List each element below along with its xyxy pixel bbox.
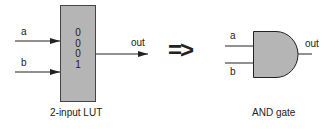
gate-output-label: out	[305, 39, 319, 49]
implies-arrow: =>	[168, 38, 192, 62]
lut-input-a-label: a	[21, 27, 27, 37]
lut-input-b-label: b	[21, 58, 27, 68]
lut-caption: 2-input LUT	[50, 108, 102, 118]
gate-input-b-label: b	[230, 67, 236, 77]
lut-bit-0: 0	[60, 28, 96, 39]
lut-truth-table: 0 0 0 1	[60, 28, 96, 70]
lut-output-label: out	[131, 38, 145, 48]
lut-bit-2: 0	[60, 49, 96, 60]
gate-input-a-label: a	[230, 31, 236, 41]
and-gate-shape	[254, 32, 299, 78]
gate-caption: AND gate	[252, 108, 295, 118]
lut-bit-3: 1	[60, 60, 96, 71]
